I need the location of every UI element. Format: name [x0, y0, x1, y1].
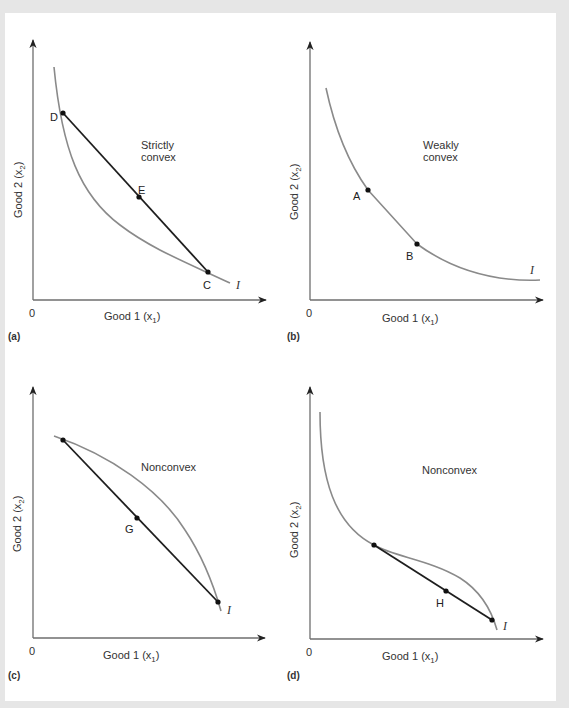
title-line-1: Nonconvex — [141, 461, 197, 473]
point-h — [443, 588, 448, 593]
origin-label: 0 — [29, 307, 35, 319]
title-line-2: convex — [141, 151, 176, 163]
x-axis-label: Good 1 (x1) — [104, 310, 160, 325]
point-label-b: B — [406, 250, 413, 262]
curve-label: I — [226, 603, 232, 617]
panel-label: (a) — [8, 331, 20, 342]
panel-d: H I Nonconvex 0 Good 1 (x1) Good 2 (x2) … — [287, 387, 543, 681]
indifference-curves-figure: D E C I Strictly convex 0 Good 1 (x1) Go… — [0, 0, 569, 708]
chord-line — [63, 113, 208, 272]
title-line-2: convex — [423, 151, 458, 163]
point-left — [60, 437, 65, 442]
point-right — [489, 617, 494, 622]
point-label-c: C — [203, 279, 211, 291]
title-line-1: Strictly — [141, 139, 175, 151]
point-g — [134, 515, 139, 520]
x-axis-label: Good 1 (x1) — [382, 312, 438, 327]
point-d — [60, 110, 65, 115]
point-label-a: A — [353, 190, 361, 202]
panel-a: D E C I Strictly convex 0 Good 1 (x1) Go… — [8, 40, 266, 342]
origin-label: 0 — [306, 307, 312, 319]
origin-label: 0 — [29, 645, 35, 657]
y-axis-label: Good 2 (x2) — [12, 162, 27, 218]
point-c — [205, 269, 210, 274]
point-a — [365, 187, 370, 192]
title-line-1: Nonconvex — [422, 464, 478, 476]
curve-label: I — [235, 278, 241, 292]
point-label-e: E — [138, 184, 145, 196]
point-label-d: D — [50, 111, 58, 123]
point-right — [215, 599, 220, 604]
chord-line — [374, 545, 492, 620]
y-axis-label: Good 2 (x2) — [11, 496, 26, 552]
origin-label: 0 — [306, 646, 312, 658]
y-axis-label: Good 2 (x2) — [288, 502, 303, 558]
curve-label: I — [502, 619, 508, 633]
point-left — [371, 542, 376, 547]
indifference-curve — [54, 67, 230, 283]
panel-label: (b) — [287, 331, 300, 342]
panel-c: G I Nonconvex 0 Good 1 (x1) Good 2 (x2) … — [8, 387, 265, 681]
title-line-1: Weakly — [423, 139, 459, 151]
panel-label: (c) — [8, 670, 20, 681]
curve-label: I — [529, 263, 535, 277]
x-axis-label: Good 1 (x1) — [382, 650, 438, 665]
indifference-curve — [320, 412, 497, 630]
y-axis-label: Good 2 (x2) — [288, 164, 303, 220]
panel-b: A B I Weakly convex 0 Good 1 (x1) Good 2… — [287, 42, 543, 342]
point-b — [414, 241, 419, 246]
indifference-curve — [326, 88, 540, 280]
x-axis-label: Good 1 (x1) — [103, 649, 159, 664]
point-label-g: G — [125, 523, 134, 535]
point-label-h: H — [436, 597, 444, 609]
panel-label: (d) — [287, 670, 300, 681]
